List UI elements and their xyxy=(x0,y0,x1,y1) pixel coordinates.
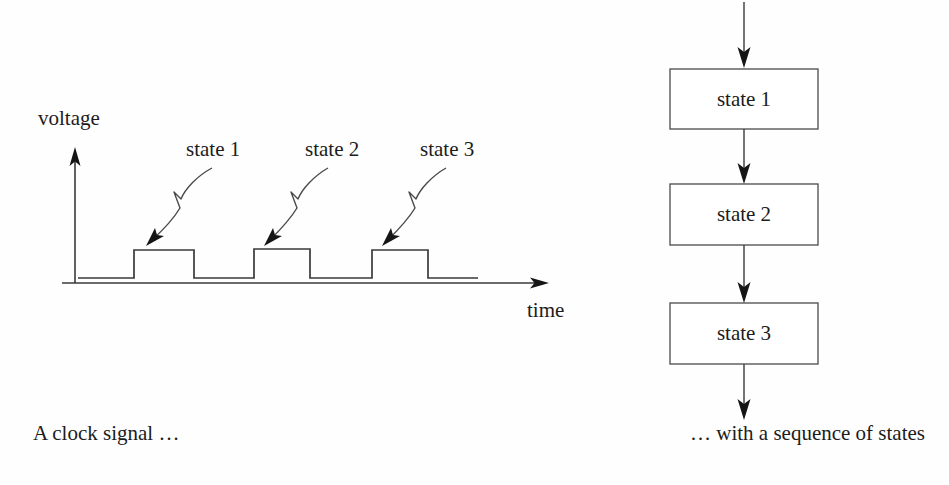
annotation-label-state-3: state 3 xyxy=(420,139,474,160)
time-axis-label: time xyxy=(527,300,564,321)
flow-arrow-exit xyxy=(738,364,751,420)
annotation-label-state-1: state 1 xyxy=(186,139,240,160)
clock-waveform xyxy=(78,249,478,278)
voltage-axis xyxy=(70,147,81,283)
flow-arrow-2-to-3 xyxy=(738,245,751,303)
annotation-label-state-2: state 2 xyxy=(305,139,359,160)
caption-clock-signal: A clock signal … xyxy=(33,423,179,444)
state-box-2-label: state 2 xyxy=(670,204,818,225)
annotation-arrow-state-3 xyxy=(382,168,446,246)
state-box-1-label: state 1 xyxy=(670,89,818,110)
voltage-axis-label: voltage xyxy=(38,108,100,129)
time-axis xyxy=(62,278,549,289)
flow-arrow-entry xyxy=(738,2,751,68)
flow-arrow-1-to-2 xyxy=(738,129,751,184)
annotation-arrow-state-1 xyxy=(146,168,212,246)
caption-state-sequence: … with a sequence of states xyxy=(690,423,925,444)
annotation-arrow-state-2 xyxy=(264,168,328,246)
figure-canvas: voltage time state 1 state 2 state 3 A c… xyxy=(0,0,949,485)
state-box-3-label: state 3 xyxy=(670,323,818,344)
